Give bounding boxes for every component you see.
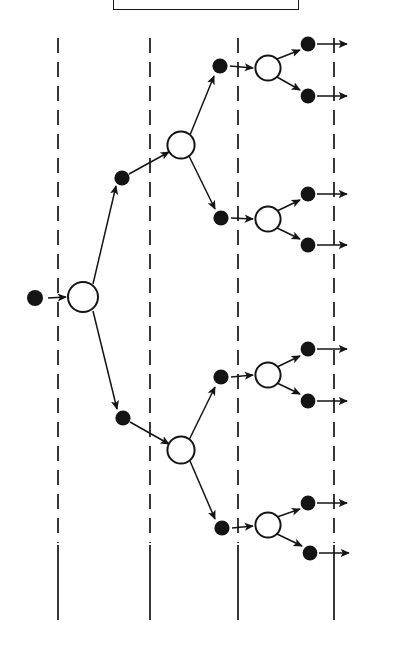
arrow-k3b-to-n3c-15	[277, 200, 300, 211]
figure-stage: NEUTRON STRIKES NUCLEUS, LIBERATES TWO N…	[0, 0, 412, 649]
nucleus-k3c	[255, 362, 280, 387]
arrow-k2a-to-n2b-6	[189, 156, 215, 209]
arrow-k2b-to-n2c-7	[189, 387, 215, 440]
nucleus-k3a	[255, 55, 280, 80]
arrow-k1-to-n1a-1	[93, 186, 116, 284]
nucleus-k3b	[255, 206, 280, 231]
arrow-n1a-to-k2a-3	[129, 152, 169, 174]
neutron-n3f	[301, 394, 316, 409]
neutron-n3b	[301, 89, 316, 104]
neutron-n2c	[213, 369, 228, 384]
arrow-k3c-to-n3f-18	[277, 383, 300, 394]
arrow-n2d-to-k3d-12	[232, 526, 253, 528]
neutron-n3a	[301, 37, 316, 52]
column-dividers	[58, 38, 334, 620]
neutron-n2d	[214, 520, 229, 535]
arrow-n0-to-k1-0	[48, 297, 66, 298]
arrow-n2c-to-k3c-11	[231, 375, 253, 377]
arrow-k3a-to-n3a-13	[277, 50, 300, 59]
neutron-n1a	[114, 170, 129, 185]
nucleus-k2b	[167, 436, 194, 463]
neutron-n3g	[301, 496, 316, 511]
arrow-k2a-to-n2a-5	[190, 76, 214, 135]
arrow-k1-to-n1b-2	[93, 311, 117, 409]
neutron-n3c	[301, 187, 316, 202]
arrow-n2b-to-k3b-10	[231, 218, 253, 219]
arrow-k3a-to-n3b-14	[277, 77, 300, 90]
nucleus-k2a	[167, 131, 194, 158]
nuclei-group	[68, 55, 281, 537]
nucleus-k3d	[255, 512, 280, 537]
neutron-n1b	[115, 410, 130, 425]
arrow-n2a-to-k3a-9	[230, 66, 253, 68]
arrow-k3d-to-n3g-19	[277, 509, 300, 517]
neutron-n0	[27, 290, 43, 306]
column-captions: NEUTRON STRIKES NUCLEUS, LIBERATES TWO N…	[0, 545, 412, 631]
arrow-k3c-to-n3e-17	[277, 356, 300, 367]
neutron-n2a	[212, 58, 227, 73]
neutron-n2b	[213, 210, 228, 225]
arrow-k2b-to-n2d-8	[190, 461, 215, 519]
arrow-k3b-to-n3d-16	[277, 228, 300, 239]
nucleus-k1	[68, 282, 98, 312]
neutron-n3d	[301, 238, 316, 253]
neutron-n3e	[301, 342, 316, 357]
